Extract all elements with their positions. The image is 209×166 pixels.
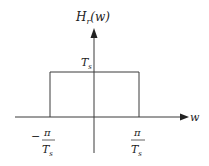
svg-text:π: π: [133, 127, 141, 138]
x-axis-arrow-icon: [180, 114, 189, 121]
x-axis-label: w: [190, 111, 200, 124]
svg-text:Ts: Ts: [131, 143, 142, 158]
svg-text:Ts: Ts: [42, 143, 53, 158]
svg-text:π: π: [43, 127, 51, 138]
y-axis-label: Hr(w): [75, 10, 110, 26]
y-axis-arrow-icon: [91, 28, 98, 38]
filter-diagram: Hr(w) Ts w − π Ts π Ts: [0, 0, 209, 166]
amplitude-label: Ts: [81, 56, 92, 71]
svg-text:−: −: [31, 130, 40, 143]
right-cutoff-label: π Ts: [131, 127, 145, 158]
left-cutoff-label: − π Ts: [31, 127, 55, 158]
